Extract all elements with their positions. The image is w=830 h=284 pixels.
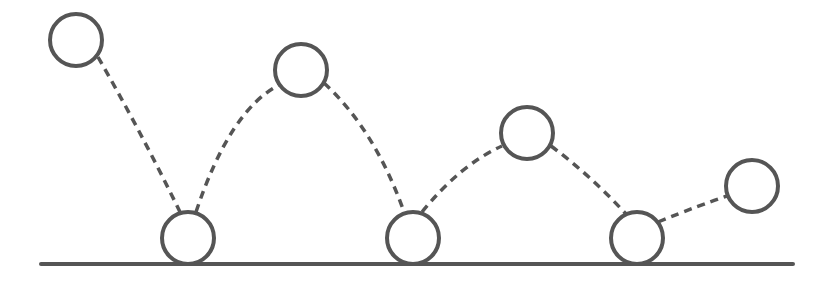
ball-apex bbox=[726, 160, 778, 212]
ball-bounce bbox=[162, 212, 214, 264]
trajectory-segment bbox=[196, 85, 279, 212]
trajectory-segment bbox=[324, 83, 404, 212]
ball-apex bbox=[275, 44, 327, 96]
trajectory-segment bbox=[551, 146, 626, 214]
trajectory-paths bbox=[98, 57, 727, 222]
diagram-canvas bbox=[0, 0, 830, 284]
ball-apex bbox=[50, 14, 102, 66]
balls bbox=[50, 14, 778, 264]
bouncing-ball-diagram bbox=[0, 0, 830, 284]
ball-bounce bbox=[387, 212, 439, 264]
trajectory-segment bbox=[422, 146, 502, 212]
ball-apex bbox=[501, 107, 553, 159]
ball-bounce bbox=[611, 212, 663, 264]
trajectory-segment bbox=[658, 196, 727, 222]
trajectory-segment bbox=[98, 57, 180, 212]
